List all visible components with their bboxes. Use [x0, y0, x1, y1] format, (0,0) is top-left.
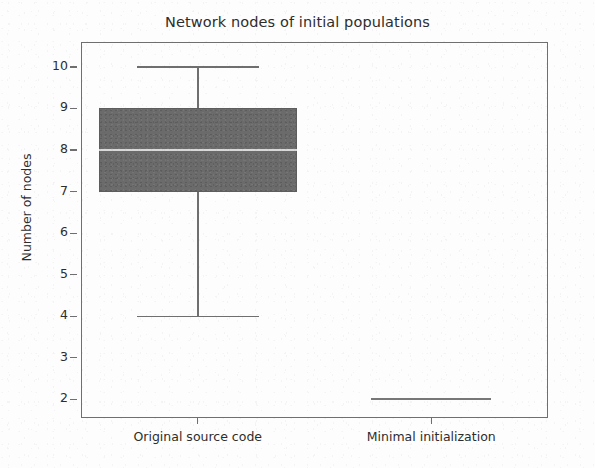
y-axis-tick-label: 3	[28, 349, 68, 364]
y-axis-tick-mark	[70, 233, 77, 234]
y-axis-tick-mark	[70, 191, 77, 192]
y-axis-tick-mark	[70, 357, 77, 358]
y-axis-tick-label: 10	[28, 58, 68, 73]
boxplot-box	[81, 42, 548, 418]
y-axis-tick-mark	[70, 108, 77, 109]
y-axis-tick-label: 7	[28, 183, 68, 198]
boxplot-figure: Network nodes of initial populations Num…	[0, 0, 595, 468]
x-axis-tick-mark	[197, 418, 198, 424]
y-axis-tick-mark	[70, 274, 77, 275]
y-axis-tick-mark	[70, 66, 77, 67]
y-axis-tick-label: 6	[28, 224, 68, 239]
y-axis-tick-label: 2	[28, 390, 68, 405]
plot-area	[81, 42, 548, 418]
x-axis-tick-label: Minimal initialization	[321, 429, 541, 444]
boxplot-median-line	[99, 149, 297, 151]
chart-title: Network nodes of initial populations	[0, 14, 595, 30]
y-axis-tick-mark	[70, 399, 77, 400]
y-axis-tick-mark	[70, 149, 77, 150]
x-axis-tick-mark	[431, 418, 432, 424]
x-axis-tick-label: Original source code	[88, 429, 308, 444]
boxplot-collapsed-box	[371, 398, 491, 400]
y-axis-tick-label: 9	[28, 99, 68, 114]
y-axis-tick-label: 4	[28, 307, 68, 322]
y-axis-tick-label: 5	[28, 266, 68, 281]
y-axis-tick-label: 8	[28, 141, 68, 156]
y-axis-tick-mark	[70, 316, 77, 317]
